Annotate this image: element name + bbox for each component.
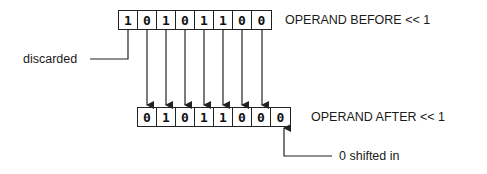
bit-cell: 0 (233, 11, 252, 29)
operand-before-label: OPERAND BEFORE << 1 (285, 14, 430, 27)
bit-cell: 0 (252, 11, 271, 29)
shifted-in-connector (284, 128, 332, 156)
bit-cell: 1 (195, 11, 214, 29)
bit-cell: 1 (157, 11, 176, 29)
shifted-in-label: 0 shifted in (339, 150, 399, 163)
bit-cell: 0 (252, 108, 271, 126)
bit-cell: 1 (214, 11, 233, 29)
operand-before-register: 1 0 1 0 1 1 0 0 (118, 10, 272, 30)
operand-after-label: OPERAND AFTER << 1 (311, 111, 445, 124)
bit-cell: 1 (119, 11, 138, 29)
operand-after-register: 0 1 0 1 1 0 0 0 (137, 107, 291, 127)
bit-cell: 0 (176, 108, 195, 126)
shift-arrows (147, 30, 262, 105)
bit-cell: 0 (233, 108, 252, 126)
bit-cell: 0 (176, 11, 195, 29)
discarded-connector (90, 30, 128, 59)
bit-cell: 1 (195, 108, 214, 126)
bit-cell: 0 (138, 11, 157, 29)
bit-cell: 1 (214, 108, 233, 126)
bit-cell: 0 (138, 108, 157, 126)
discarded-label: discarded (23, 53, 77, 66)
bit-cell: 1 (157, 108, 176, 126)
bit-cell: 0 (271, 108, 290, 126)
